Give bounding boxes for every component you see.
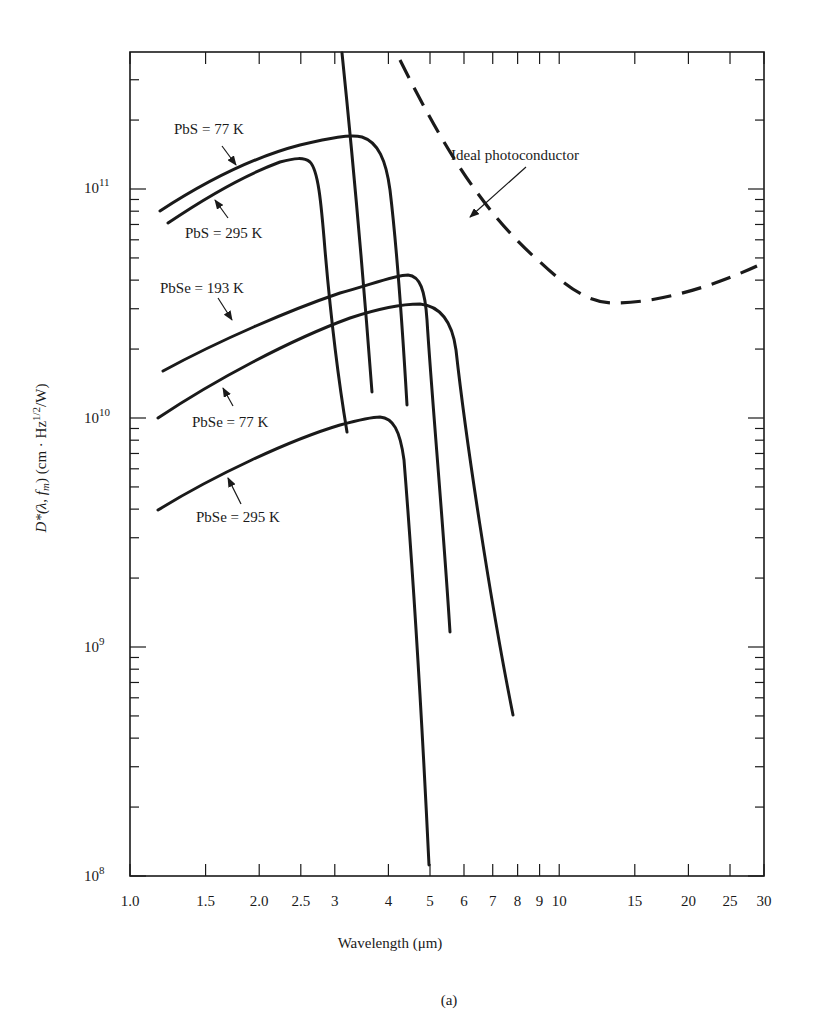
arrow-pbse-295k	[228, 478, 241, 504]
x-tick-label: 1.0	[121, 893, 140, 909]
label-pbse-77k: PbSe = 77 K	[192, 414, 269, 430]
arrow-pbs-295k	[215, 200, 228, 218]
x-tick-label: 1.5	[196, 893, 215, 909]
x-axis-title: Wavelength (μm)	[338, 935, 443, 952]
y-tick-label-1e11: 1011	[84, 176, 110, 196]
x-axis-tick-labels: 1.01.52.02.534567891015202530	[121, 893, 772, 909]
x-axis-ticks	[130, 52, 764, 876]
chart-svg: 1.01.52.02.534567891015202530 108 109 10…	[0, 0, 817, 1022]
x-tick-label: 5	[426, 893, 434, 909]
x-tick-label: 2.5	[291, 893, 310, 909]
y-axis-title: D*(λ, fm) (cm · Hz1/2/W)	[30, 384, 51, 534]
x-tick-label: 2.0	[250, 893, 269, 909]
label-pbse-193k: PbSe = 193 K	[160, 280, 244, 296]
y-tick-label-1e8: 108	[84, 864, 105, 884]
curve-steep-cutoff	[342, 53, 372, 392]
x-tick-label: 10	[552, 893, 567, 909]
x-tick-label: 3	[331, 893, 339, 909]
arrow-pbse-193k	[218, 298, 232, 320]
label-pbs-295k: PbS = 295 K	[185, 225, 262, 241]
x-tick-label: 7	[489, 893, 497, 909]
y-axis-tick-labels: 108 109 1010 1011	[84, 176, 111, 884]
curve-ideal-photoconductor	[400, 60, 757, 303]
arrow-ideal	[470, 167, 526, 217]
figure-caption: (a)	[441, 992, 458, 1009]
y-axis-ticks	[130, 80, 764, 876]
x-tick-label: 15	[627, 893, 642, 909]
x-tick-label: 9	[536, 893, 544, 909]
arrow-pbse-77k	[223, 388, 233, 406]
x-tick-label: 20	[681, 893, 696, 909]
x-tick-label: 4	[385, 893, 393, 909]
curve-pbse-295k	[158, 417, 429, 865]
x-tick-label: 30	[757, 893, 772, 909]
label-pbs-77k: PbS = 77 K	[174, 121, 244, 137]
x-tick-label: 25	[723, 893, 738, 909]
arrow-pbs-77k	[222, 146, 236, 165]
figure: 1.01.52.02.534567891015202530 108 109 10…	[0, 0, 817, 1022]
x-tick-label: 8	[514, 893, 522, 909]
y-tick-label-1e9: 109	[84, 635, 105, 655]
plot-frame	[130, 52, 764, 876]
x-tick-label: 6	[460, 893, 468, 909]
curve-pbse-193k	[163, 275, 450, 632]
y-tick-label-1e10: 1010	[84, 406, 111, 426]
label-ideal-photoconductor: Ideal photoconductor	[451, 147, 579, 163]
label-pbse-295k: PbSe = 295 K	[196, 509, 280, 525]
